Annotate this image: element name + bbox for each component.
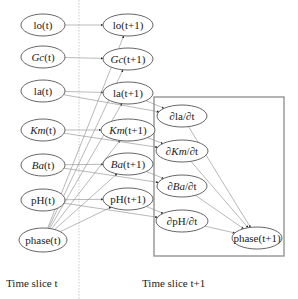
node-label: lo(t) [34,19,53,32]
node-Km_t: Km(t) [21,119,65,141]
node-la_t: la(t) [21,80,65,102]
node-label: pH(t+1) [110,193,146,206]
node-la_t1: la(t+1) [103,82,153,104]
node-label: Ba(t+1) [111,158,146,171]
edge-la_t-to-la_t1 [65,92,103,93]
node-label: lo(t+1) [113,19,144,32]
node-dBa: ∂Ba/∂t [157,175,207,197]
node-Km_t1: Km(t+1) [101,119,155,141]
node-Ba_t1: Ba(t+1) [103,153,153,175]
node-label: ∂pH/∂t [167,215,197,227]
node-dKm: ∂Km/∂t [156,140,208,162]
node-Gc_t: Gc(t) [21,46,65,68]
edge-Ba_t1-to-dBa [146,171,163,178]
node-phase_t: phase(t) [19,228,67,252]
edge-pH_t1-to-dpH [146,206,163,213]
node-dla: ∂la/∂t [157,105,207,127]
node-phase_t1: phase(t+1) [232,227,282,249]
edge-phase_t-to-Km_t1 [52,140,120,228]
node-Ba_t: Ba(t) [21,154,65,176]
slice-label-t: Time slice t [6,277,58,289]
node-label: ∂Km/∂t [166,145,198,157]
edge-la_t1-to-dla [146,101,164,109]
node-label: phase(t+1) [233,232,280,245]
node-label: ∂la/∂t [170,110,195,122]
node-label: Km(t+1) [108,124,147,137]
node-label: Gc(t+1) [111,53,146,66]
node-label: Km(t) [29,124,56,137]
node-label: la(t) [34,85,53,98]
node-lo_t: lo(t) [21,14,65,36]
node-label: ∂Ba/∂t [167,180,196,192]
node-lo_t1: lo(t+1) [103,14,153,36]
node-pH_t1: pH(t+1) [103,188,153,210]
node-pH_t: pH(t) [21,189,65,211]
node-Gc_t1: Gc(t+1) [103,48,153,70]
node-label: Gc(t) [31,51,55,64]
edge-phase_t-to-pH_t1 [60,207,111,232]
slice-label-t-plus-1: Time slice t+1 [142,277,205,289]
dbn-diagram: lo(t)Gc(t)la(t)Km(t)Ba(t)pH(t)phase(t)lo… [0,0,298,299]
node-dpH: ∂pH/∂t [156,210,208,232]
node-label: phase(t) [25,234,61,247]
edge-dpH-to-phase_t1 [205,226,235,233]
node-label: pH(t) [31,194,55,207]
node-label: Ba(t) [32,159,55,172]
node-label: la(t+1) [113,87,143,100]
edge-Gc_t-to-Gc_t1 [65,58,103,59]
edge-Km_t1-to-dKm [148,138,163,144]
